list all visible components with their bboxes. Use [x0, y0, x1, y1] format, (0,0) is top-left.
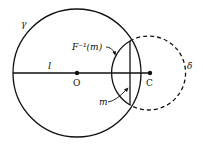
label-gamma: γ	[21, 19, 27, 29]
arrowhead-inverse-image-icon	[113, 51, 117, 56]
point-O	[75, 71, 79, 75]
label-C: C	[146, 78, 153, 88]
point-C	[148, 71, 152, 75]
label-l: l	[48, 60, 51, 71]
label-O: O	[73, 78, 80, 88]
label-m: m	[99, 97, 108, 107]
label-inverse-image: F⁻¹(m)	[71, 42, 103, 52]
label-delta: δ	[187, 61, 192, 71]
inversion-diagram: γ δ l O C F⁻¹(m) m	[0, 0, 203, 149]
